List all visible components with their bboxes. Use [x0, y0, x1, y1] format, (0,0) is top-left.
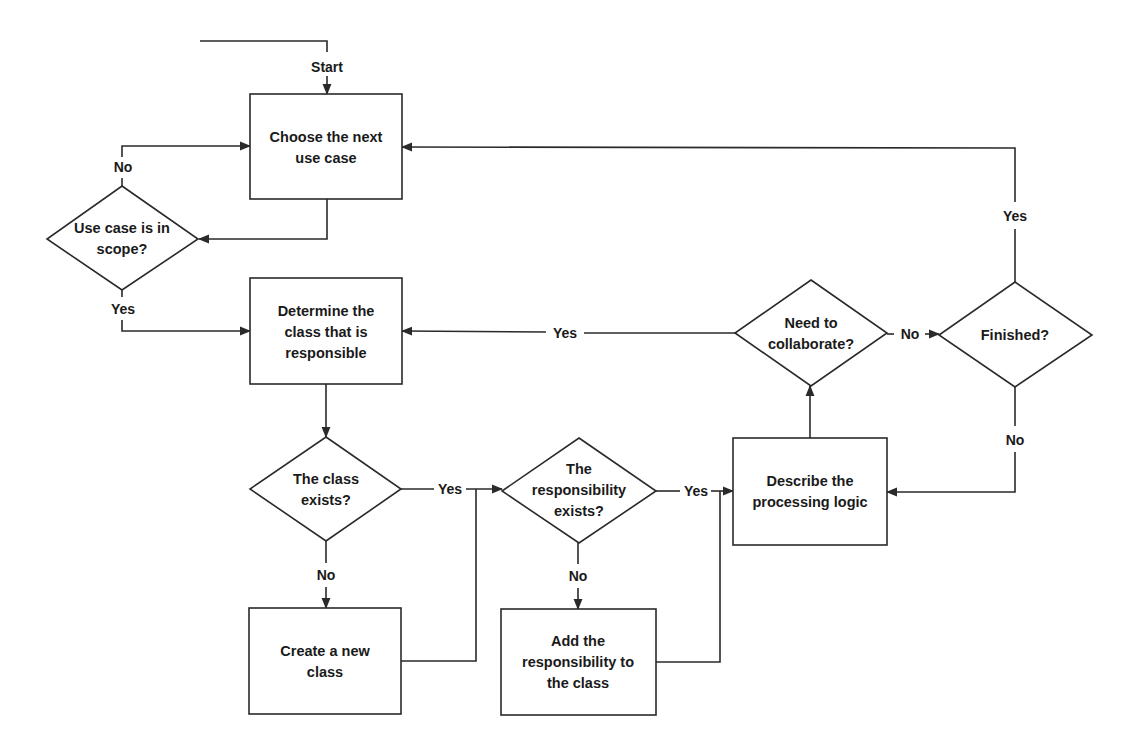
node-text: use case	[295, 150, 356, 166]
node-text: class	[307, 664, 343, 680]
label-finished-no: No	[1006, 432, 1025, 448]
node-text: The class	[293, 471, 359, 487]
start-label: Start	[311, 59, 343, 75]
node-create-class: Create a new class	[249, 608, 401, 714]
node-text: Use case is in	[74, 220, 170, 236]
node-text: responsible	[285, 345, 366, 361]
node-text: Choose the next	[270, 129, 383, 145]
node-text: The	[566, 461, 592, 477]
label-respexists-no: No	[569, 568, 588, 584]
label-scope-yes: Yes	[111, 301, 135, 317]
node-text: exists?	[554, 503, 604, 519]
label-collab-yes: Yes	[553, 325, 577, 341]
decision-responsibility-exists: The responsibility exists?	[502, 438, 656, 543]
label-classexists-no: No	[317, 567, 336, 583]
node-text: the class	[547, 675, 609, 691]
label-scope-no: No	[114, 159, 133, 175]
edge-collab-yes-b	[402, 331, 546, 332]
node-text: Describe the	[766, 473, 853, 489]
node-text: scope?	[97, 241, 148, 257]
decision-finished: Finished?	[939, 282, 1092, 387]
label-classexists-yes: Yes	[438, 481, 462, 497]
edge-create-to-respexists	[401, 489, 476, 661]
node-text: Create a new	[280, 643, 370, 659]
node-text: Finished?	[981, 327, 1050, 343]
node-determine-class: Determine the class that is responsible	[250, 278, 402, 384]
decision-in-scope: Use case is in scope?	[47, 186, 198, 290]
node-text: collaborate?	[768, 336, 854, 352]
label-finished-yes: Yes	[1003, 208, 1027, 224]
node-text: processing logic	[752, 494, 867, 510]
node-text: exists?	[301, 492, 351, 508]
decision-class-exists: The class exists?	[250, 437, 401, 541]
node-choose-use-case: Choose the next use case	[250, 94, 402, 199]
edge-finished-yes-b	[402, 147, 1015, 202]
node-text: responsibility to	[522, 654, 634, 670]
start-line	[200, 41, 327, 52]
node-text: Need to	[784, 315, 837, 331]
edge-add-to-describe	[656, 491, 720, 662]
node-describe-logic: Describe the processing logic	[733, 438, 887, 545]
edge-scope-yes-to-determine	[122, 320, 250, 331]
node-text: class that is	[284, 324, 367, 340]
label-collab-no: No	[901, 326, 920, 342]
node-text: Add the	[551, 633, 605, 649]
edge-choose-to-scope	[199, 199, 327, 239]
node-add-responsibility: Add the responsibility to the class	[501, 609, 656, 715]
flowchart-canvas: Choose the next use case Use case is in …	[0, 0, 1141, 756]
edge-scope-no-to-choose	[122, 146, 250, 157]
decision-need-collaborate: Need to collaborate?	[735, 280, 887, 386]
label-respexists-yes: Yes	[684, 483, 708, 499]
node-text: responsibility	[532, 482, 626, 498]
edge-finished-no-b	[887, 452, 1015, 492]
node-text: Determine the	[278, 303, 375, 319]
